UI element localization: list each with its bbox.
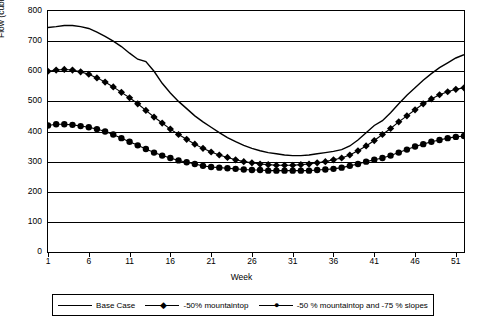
legend-label: -50 % mountaintop and -75 % slopes — [297, 301, 428, 310]
y-tick-label: 100 — [14, 216, 42, 226]
x-tick-label: 31 — [283, 256, 303, 266]
x-tick-label: 11 — [120, 256, 140, 266]
x-tick-label: 6 — [79, 256, 99, 266]
chart-legend: Base Case◆-50% mountaintop●-50 % mountai… — [52, 294, 434, 316]
plot-area — [47, 10, 465, 253]
legend-item-1: ◆-50% mountaintop — [145, 300, 248, 310]
legend-swatch: ● — [259, 300, 293, 310]
y-axis-title: Flow (cubic metres per day) — [0, 0, 6, 38]
circle-icon: ● — [272, 300, 282, 310]
x-tick-label: 21 — [201, 256, 221, 266]
gridline — [48, 192, 464, 193]
gridline — [48, 101, 464, 102]
y-tick-label: 200 — [14, 186, 42, 196]
gridline — [48, 41, 464, 42]
y-tick-label: 400 — [14, 126, 42, 136]
x-tick-label: 41 — [364, 256, 384, 266]
legend-label: -50% mountaintop — [183, 301, 248, 310]
x-axis-title: Week — [0, 272, 483, 282]
gridline — [48, 71, 464, 72]
legend-item-0: Base Case — [58, 300, 135, 310]
gridline — [48, 132, 464, 133]
legend-swatch: ◆ — [145, 300, 179, 310]
gridline — [48, 222, 464, 223]
y-tick-label: 700 — [14, 35, 42, 45]
x-tick-label: 51 — [446, 256, 466, 266]
gridlines — [48, 11, 464, 252]
chart-root: Flow (cubic metres per day) 010020030040… — [0, 0, 483, 323]
y-tick-label: 800 — [14, 5, 42, 15]
gridline — [48, 162, 464, 163]
x-tick-label: 36 — [323, 256, 343, 266]
x-tick-label: 1 — [38, 256, 58, 266]
x-tick-label: 26 — [242, 256, 262, 266]
x-tick-label: 16 — [160, 256, 180, 266]
diamond-icon: ◆ — [158, 300, 168, 310]
y-tick-label: 500 — [14, 95, 42, 105]
y-tick-label: 0 — [14, 246, 42, 256]
y-tick-label: 600 — [14, 65, 42, 75]
y-tick-label: 300 — [14, 156, 42, 166]
legend-label: Base Case — [96, 301, 135, 310]
legend-item-2: ●-50 % mountaintop and -75 % slopes — [259, 300, 428, 310]
legend-swatch — [58, 300, 92, 310]
x-tick-label: 46 — [405, 256, 425, 266]
